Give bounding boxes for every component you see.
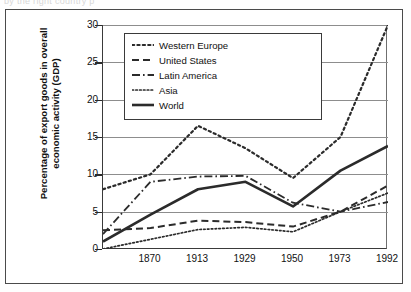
- legend-swatch-icon: [132, 85, 154, 95]
- y-tick-mark: [95, 212, 102, 213]
- x-tick-label: 1950: [269, 253, 315, 264]
- legend-item-western-europe: Western Europe: [132, 39, 240, 51]
- legend-label: United States: [159, 55, 217, 66]
- legend-item-latin-america: Latin America: [132, 69, 240, 81]
- y-tick-label: 5: [58, 206, 98, 217]
- y-tick-mark: [95, 100, 102, 101]
- y-axis-title: Percentage of export goods in overall ec…: [38, 19, 61, 209]
- y-tick-label: 30: [58, 19, 98, 30]
- legend-swatch-icon: [132, 40, 154, 50]
- page-cut-text: by the right country p: [4, 0, 304, 6]
- chart-legend: Western EuropeUnited StatesLatin America…: [124, 33, 322, 120]
- legend-swatch-icon: [132, 70, 154, 80]
- legend-item-asia: Asia: [132, 84, 214, 96]
- y-tick-label: 15: [58, 131, 98, 142]
- y-tick-label: 10: [58, 168, 98, 179]
- x-tick-label: 1992: [364, 253, 410, 264]
- series-line-latin-america: [103, 176, 388, 234]
- y-tick-mark: [95, 137, 102, 138]
- y-tick-mark: [95, 62, 102, 63]
- x-tick-label: 1973: [317, 253, 363, 264]
- legend-item-world: World: [132, 99, 240, 111]
- legend-swatch-icon: [132, 55, 154, 65]
- legend-item-united-states: United States: [132, 54, 214, 66]
- legend-label: World: [159, 100, 184, 111]
- y-tick-mark: [95, 25, 102, 26]
- y-tick-label: 25: [58, 56, 98, 67]
- y-tick-label: 20: [58, 94, 98, 105]
- legend-label: Asia: [159, 85, 178, 96]
- legend-label: Western Europe: [159, 40, 228, 51]
- figure-frame: Percentage of export goods in overall ec…: [5, 9, 403, 284]
- x-tick-label: 1870: [127, 253, 173, 264]
- x-tick-label: 1929: [222, 253, 268, 264]
- legend-swatch-icon: [132, 100, 154, 110]
- series-line-asia: [103, 193, 388, 249]
- y-tick-mark: [95, 174, 102, 175]
- y-tick-label: 0: [58, 243, 98, 254]
- plot-wrapper: 051015202530 187019131929195019731992 We…: [102, 25, 387, 263]
- x-tick-label: 1913: [174, 253, 220, 264]
- figure-page: by the right country p Percentage of exp…: [0, 0, 411, 292]
- series-line-united-states: [103, 186, 388, 231]
- y-tick-mark: [95, 249, 102, 250]
- legend-label: Latin America: [159, 70, 217, 81]
